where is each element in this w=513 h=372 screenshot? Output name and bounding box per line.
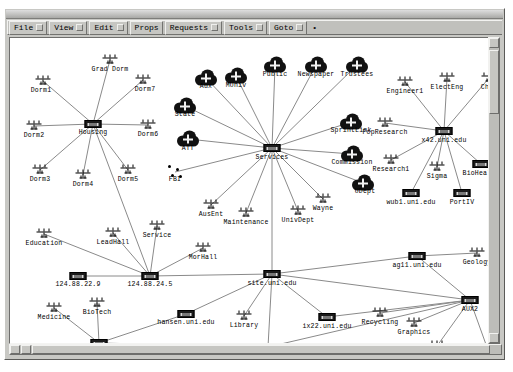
topology-node-x42[interactable]: x42.uni.edu bbox=[436, 127, 453, 135]
vertical-scroll-thumb[interactable] bbox=[489, 50, 499, 114]
topology-node-label: Dorm2 bbox=[24, 132, 45, 140]
topology-node-state[interactable]: State bbox=[174, 98, 196, 115]
menubar: FileViewEditPropsRequestsToolsGoto• bbox=[7, 20, 502, 35]
menu-props[interactable]: Props bbox=[130, 21, 163, 35]
topology-node-recycling[interactable]: Recycling bbox=[373, 308, 388, 319]
network-segment-icon bbox=[398, 77, 413, 88]
scroll-left-page-button[interactable] bbox=[21, 345, 31, 354]
topology-node-electeng[interactable]: ElectEng bbox=[440, 73, 455, 84]
topology-node-label: AUX2 bbox=[462, 306, 478, 314]
topology-node-label: Newspaper bbox=[298, 71, 335, 79]
horizontal-scroll-thumb[interactable] bbox=[32, 345, 490, 354]
topology-node-ip24[interactable]: 124.88.24.5 bbox=[142, 272, 159, 280]
topology-canvas-scroll-area[interactable]: Grad DormDorm1Dorm7Dorm2HousingDorm6Dorm… bbox=[9, 37, 490, 344]
router-icon bbox=[462, 296, 479, 304]
topology-node-service[interactable]: Service bbox=[150, 221, 165, 232]
topology-node-dorm3[interactable]: Dorm3 bbox=[33, 165, 48, 176]
window-titlebar[interactable] bbox=[6, 10, 503, 19]
network-segment-icon bbox=[106, 228, 121, 239]
scroll-up-button[interactable] bbox=[489, 38, 499, 48]
topology-node-geology[interactable]: Geology bbox=[470, 248, 485, 259]
topology-node-portiv[interactable]: PortIV bbox=[454, 189, 471, 197]
topology-node-newspaper[interactable]: Newspaper bbox=[305, 57, 327, 74]
scroll-left-button[interactable] bbox=[10, 345, 20, 354]
topology-node-public[interactable]: Public bbox=[264, 57, 286, 74]
menu-dropdown-cue-icon bbox=[296, 24, 303, 31]
topology-node-ausent[interactable]: AusEnt bbox=[204, 200, 219, 211]
topology-node-agl1[interactable]: ag11.uni.edu bbox=[409, 252, 426, 260]
topology-node-engineer1[interactable]: Engineer1 bbox=[398, 77, 413, 88]
topology-canvas[interactable]: Grad DormDorm1Dorm7Dorm2HousingDorm6Dorm… bbox=[10, 38, 489, 343]
topology-node-graphics[interactable]: Graphics bbox=[407, 318, 422, 329]
topology-node-wub1[interactable]: wub1.uni.edu bbox=[403, 189, 420, 197]
topology-node-sprintlink[interactable]: SprintLink bbox=[340, 114, 362, 131]
menu-view[interactable]: View bbox=[49, 21, 87, 35]
topology-node-biotech[interactable]: BioTech bbox=[90, 298, 105, 309]
topology-node-medicine[interactable]: Medicine bbox=[47, 303, 62, 314]
topology-node-wayne[interactable]: Wayne bbox=[316, 194, 331, 205]
topology-node-dorm5[interactable]: Dorm5 bbox=[121, 165, 136, 176]
topology-node-aux2[interactable]: AUX2 bbox=[462, 296, 479, 304]
topology-node-trustees[interactable]: Trustees bbox=[346, 57, 368, 74]
topology-edge bbox=[93, 124, 150, 276]
topology-node-dorm4[interactable]: Dorm4 bbox=[76, 170, 91, 181]
menu-label: Props bbox=[135, 23, 159, 32]
network-segment-icon bbox=[27, 121, 42, 132]
topology-node-commission[interactable]: Commission bbox=[341, 146, 363, 163]
topology-node-grad_dorm[interactable]: Grad Dorm bbox=[103, 55, 118, 66]
router-icon bbox=[473, 160, 490, 168]
topology-node-label: Maintenance bbox=[223, 219, 268, 227]
network-segment-icon bbox=[196, 243, 211, 254]
topology-node-popresearch[interactable]: PopResearch bbox=[378, 118, 393, 129]
menu-label: File bbox=[14, 23, 33, 32]
menu-goto[interactable]: Goto bbox=[269, 21, 307, 35]
topology-node-label: Dorm6 bbox=[138, 131, 159, 139]
menu-dropdown-cue-icon bbox=[36, 24, 43, 31]
topology-node-label: Dorm7 bbox=[135, 86, 156, 94]
menu-file[interactable]: File bbox=[9, 21, 47, 35]
topology-node-fbi[interactable]: FBI bbox=[168, 165, 182, 179]
topology-node-udept[interactable]: UDept bbox=[352, 175, 374, 192]
menu-edit[interactable]: Edit bbox=[89, 21, 127, 35]
topology-node-services[interactable]: Services bbox=[264, 144, 281, 152]
topology-node-maintenance[interactable]: Maintenance bbox=[239, 208, 254, 219]
topology-node-label: Education bbox=[26, 240, 63, 248]
topology-node-dorm6[interactable]: Dorm6 bbox=[141, 120, 156, 131]
topology-node-dorm1[interactable]: Dorm1 bbox=[36, 76, 51, 87]
topology-node-library[interactable]: Library bbox=[237, 311, 252, 322]
topology-node-ip22[interactable]: 124.88.22.9 bbox=[70, 272, 87, 280]
topology-node-dorm2[interactable]: Dorm2 bbox=[27, 121, 42, 132]
topology-node-housing[interactable]: Housing bbox=[85, 120, 102, 128]
topology-node-education[interactable]: Education bbox=[37, 229, 52, 240]
router-icon bbox=[403, 189, 420, 197]
menu-requests[interactable]: Requests bbox=[165, 21, 222, 35]
topology-node-att[interactable]: ATT bbox=[177, 131, 199, 148]
topology-node-label: hansen.uni.edu bbox=[157, 319, 214, 327]
topology-node-label: wub1.uni.edu bbox=[386, 199, 435, 207]
topology-node-aux[interactable]: Aux bbox=[195, 70, 217, 87]
topology-node-dorm7[interactable]: Dorm7 bbox=[136, 75, 151, 86]
topology-node-label: Services bbox=[256, 154, 289, 162]
network-segment-icon bbox=[47, 303, 62, 314]
router-icon bbox=[264, 144, 281, 152]
topology-node-morhall[interactable]: MorHall bbox=[196, 243, 211, 254]
scroll-down-button[interactable] bbox=[489, 333, 499, 343]
topology-node-univdept[interactable]: UnivDept bbox=[291, 206, 306, 217]
topology-node-muniv[interactable]: MUniv bbox=[225, 68, 247, 85]
topology-node-label: Engineer1 bbox=[387, 88, 424, 96]
topology-node-biohealth[interactable]: BioHealth bbox=[473, 160, 490, 168]
network-segment-icon bbox=[470, 248, 485, 259]
topology-node-leadhall[interactable]: LeadHall bbox=[106, 228, 121, 239]
topology-node-site[interactable]: site.uni.edu bbox=[264, 270, 281, 278]
topology-node-ix22[interactable]: ix22.uni.edu bbox=[319, 313, 336, 321]
network-segment-icon bbox=[204, 200, 219, 211]
network-segment-icon bbox=[291, 206, 306, 217]
horizontal-scrollbar[interactable] bbox=[9, 344, 502, 355]
topology-node-hansen[interactable]: hansen.uni.edu bbox=[178, 310, 195, 318]
topology-node-sigma[interactable]: Sigma bbox=[430, 162, 445, 173]
topology-node-research1[interactable]: Research1 bbox=[384, 155, 399, 166]
network-segment-icon bbox=[136, 75, 151, 86]
vertical-scrollbar[interactable] bbox=[488, 37, 500, 344]
menu-tools[interactable]: Tools bbox=[224, 21, 267, 35]
topology-node-label: LeadHall bbox=[97, 239, 130, 247]
